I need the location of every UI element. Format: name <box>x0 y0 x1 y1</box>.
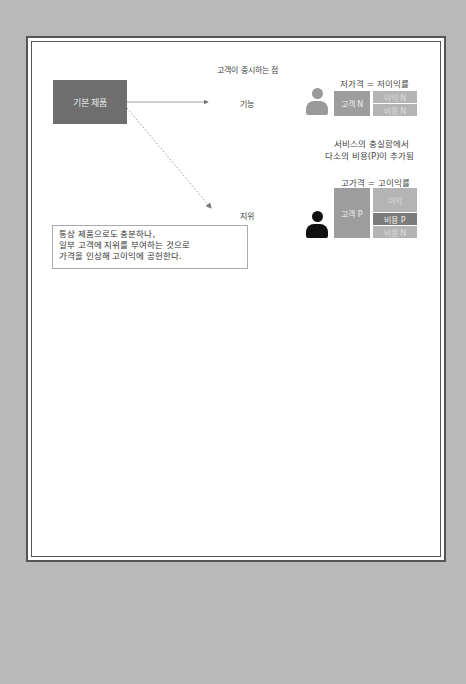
person-icon-gray <box>306 88 328 116</box>
customer-n-label: 고객 N <box>341 98 364 109</box>
attribute-status: 지위 <box>240 210 254 221</box>
note-line2: 일부 고객에 지위를 부여하는 것으로 <box>59 240 241 251</box>
dotted-arrow <box>127 108 211 208</box>
cost-p-label: 비용 P <box>384 214 405 225</box>
customer-n-box: 고객 N <box>334 91 370 116</box>
profit-box: 이익 <box>373 188 417 212</box>
note-line3: 가격을 인상해 고이익에 공헌한다. <box>59 251 241 262</box>
customer-p-label: 고객 P <box>341 208 362 219</box>
attribute-function: 기능 <box>240 98 254 109</box>
note-line1: 통상 제품으로도 충분하나, <box>59 229 241 240</box>
customer-p-box: 고객 P <box>334 188 370 238</box>
profit-label: 이익 <box>388 195 402 206</box>
base-product-box: 기본 제품 <box>53 80 127 124</box>
cost-n-box: 비용 N <box>373 104 417 116</box>
cost-n2-box: 비용 N <box>373 226 417 238</box>
service-note-line2: 다소의 비용(P)이 추가됨 <box>325 149 414 161</box>
low-price-title: 저가격 = 저이익률 <box>340 77 409 89</box>
header-label: 고객이 중시하는 점 <box>217 64 278 75</box>
profit-n-label: 이익 N <box>384 92 407 103</box>
cost-n2-label: 비용 N <box>384 227 407 238</box>
cost-p-box: 비용 P <box>373 213 417 225</box>
explanation-note: 통상 제품으로도 충분하나, 일부 고객에 지위를 부여하는 것으로 가격을 인… <box>52 225 248 269</box>
person-icon-black <box>306 211 328 239</box>
base-product-label: 기본 제품 <box>73 96 108 109</box>
service-note-line1: 서비스의 충실함에서 <box>334 137 409 149</box>
profit-n-box: 이익 N <box>373 91 417 103</box>
cost-n-label: 비용 N <box>384 105 407 116</box>
high-price-title: 고가격 = 고이익률 <box>341 176 410 188</box>
